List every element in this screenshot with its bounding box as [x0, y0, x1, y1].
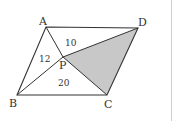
right-border-line	[171, 0, 172, 121]
label-a: A	[38, 15, 48, 28]
label-b: B	[9, 97, 17, 110]
area-label-apd: 10	[65, 38, 77, 48]
area-label-apb: 12	[39, 54, 50, 64]
area-label-bpc: 20	[58, 78, 70, 88]
segment-pa	[46, 27, 63, 57]
label-d: D	[138, 16, 147, 29]
geometry-figure: A D B C P 10 12 20	[0, 0, 175, 121]
label-p: P	[59, 59, 67, 72]
label-c: C	[104, 98, 112, 111]
